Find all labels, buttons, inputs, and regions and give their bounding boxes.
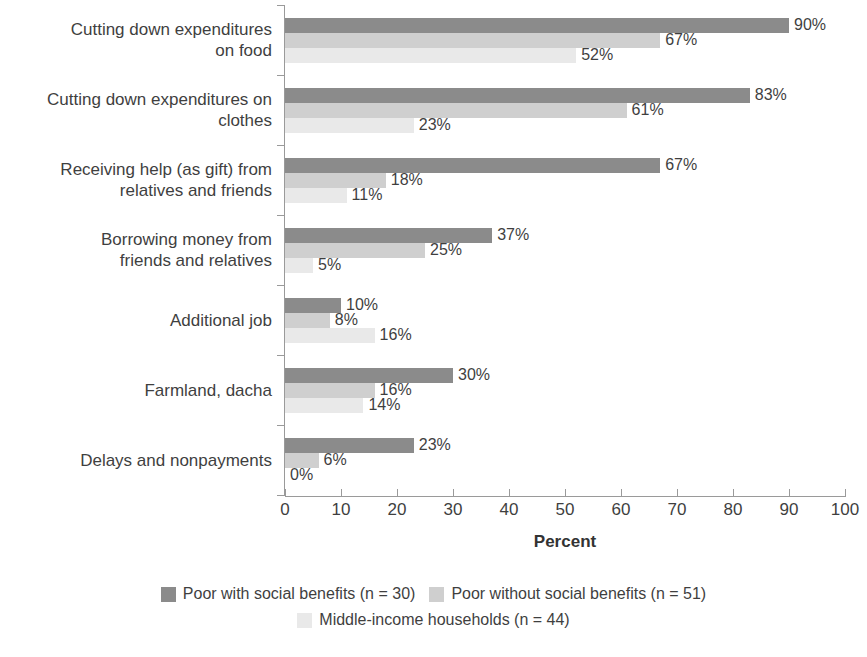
bar[interactable] (285, 103, 627, 118)
bar-group: 23%6%0% (285, 425, 845, 495)
bar-row: 14% (285, 398, 845, 413)
bar-row: 25% (285, 243, 845, 258)
bar-value-label: 16% (375, 325, 412, 345)
bar-chart: Cutting down expenditures on foodCutting… (0, 0, 867, 657)
x-axis-title: Percent (285, 532, 845, 552)
bar-row: 10% (285, 298, 845, 313)
bar-value-label: 5% (313, 255, 341, 275)
x-axis-tick-label: 70 (657, 500, 697, 520)
category-label: Cutting down expenditures on food (0, 19, 272, 61)
category-label-list: Cutting down expenditures on foodCutting… (0, 0, 272, 500)
bar-row: 0% (285, 468, 845, 483)
y-axis-tick (277, 355, 285, 356)
bar[interactable] (285, 313, 330, 328)
bar-value-label: 52% (576, 45, 613, 65)
bar-row: 8% (285, 313, 845, 328)
x-axis-tick (621, 489, 622, 497)
bar-value-label: 23% (414, 435, 451, 455)
bar-value-label: 11% (347, 185, 383, 205)
bar-group: 83%61%23% (285, 75, 845, 145)
x-axis-tick-label: 10 (321, 500, 361, 520)
category-label: Borrowing money from friends and relativ… (0, 229, 272, 271)
category-label: Additional job (0, 310, 272, 331)
bar-group: 10%8%16% (285, 285, 845, 355)
bar-value-label: 25% (425, 240, 462, 260)
bar-group: 67%18%11% (285, 145, 845, 215)
bar[interactable] (285, 48, 576, 63)
bar-group: 90%67%52% (285, 5, 845, 75)
bar-group: 37%25%5% (285, 215, 845, 285)
bar-row: 16% (285, 328, 845, 343)
category-label: Receiving help (as gift) from relatives … (0, 159, 272, 201)
legend-item[interactable]: Poor with social benefits (n = 30) (161, 585, 416, 603)
bar-row: 67% (285, 158, 845, 173)
bar-value-label: 14% (363, 395, 400, 415)
bar-value-label: 6% (319, 450, 347, 470)
chart-legend: Poor with social benefits (n = 30)Poor w… (0, 585, 867, 637)
x-axis-tick-label: 40 (489, 500, 529, 520)
legend-label: Middle-income households (n = 44) (319, 611, 569, 629)
x-axis-tick-label: 0 (265, 500, 305, 520)
bar[interactable] (285, 258, 313, 273)
bar[interactable] (285, 243, 425, 258)
bar-group: 30%16%14% (285, 355, 845, 425)
y-axis-tick (277, 215, 285, 216)
x-axis-tick (789, 489, 790, 497)
bar-value-label: 0% (285, 465, 313, 485)
x-axis-tick (565, 489, 566, 497)
legend-label: Poor without social benefits (n = 51) (451, 585, 706, 603)
bar-row: 90% (285, 18, 845, 33)
x-axis-tick (509, 489, 510, 497)
bar-row: 52% (285, 48, 845, 63)
legend-item[interactable]: Middle-income households (n = 44) (297, 611, 569, 629)
bar[interactable] (285, 18, 789, 33)
category-label: Cutting down expenditures on clothes (0, 89, 272, 131)
x-axis-tick (845, 489, 846, 497)
y-axis-tick (277, 425, 285, 426)
bar-value-label: 18% (386, 170, 423, 190)
category-label: Delays and nonpayments (0, 450, 272, 471)
y-axis-tick (277, 75, 285, 76)
bar[interactable] (285, 398, 363, 413)
bar[interactable] (285, 88, 750, 103)
bar-value-label: 61% (627, 100, 664, 120)
x-axis-tick (733, 489, 734, 497)
bar[interactable] (285, 188, 347, 203)
x-axis-tick (453, 489, 454, 497)
bar[interactable] (285, 158, 660, 173)
x-axis-tick-label: 30 (433, 500, 473, 520)
legend-label: Poor with social benefits (n = 30) (183, 585, 416, 603)
legend-swatch-icon (297, 613, 312, 628)
bar-value-label: 67% (660, 30, 697, 50)
y-axis-tick (277, 285, 285, 286)
bar-row: 83% (285, 88, 845, 103)
x-axis-tick-label: 20 (377, 500, 417, 520)
legend-item[interactable]: Poor without social benefits (n = 51) (429, 585, 706, 603)
legend-swatch-icon (161, 587, 176, 602)
bar-row: 5% (285, 258, 845, 273)
x-axis-tick (677, 489, 678, 497)
bar[interactable] (285, 368, 453, 383)
bar-row: 23% (285, 438, 845, 453)
bar-value-label: 30% (453, 365, 490, 385)
bar-value-label: 23% (414, 115, 451, 135)
bar-value-label: 8% (330, 310, 358, 330)
bar[interactable] (285, 118, 414, 133)
bar[interactable] (285, 328, 375, 343)
x-axis-tick-label: 90 (769, 500, 809, 520)
bar-value-label: 83% (750, 85, 787, 105)
x-axis-tick-label: 60 (601, 500, 641, 520)
y-axis-tick (277, 495, 285, 496)
y-axis-tick (277, 5, 285, 6)
legend-row: Middle-income households (n = 44) (0, 611, 867, 629)
bar-row: 11% (285, 188, 845, 203)
bar[interactable] (285, 438, 414, 453)
x-axis-tick-label: 50 (545, 500, 585, 520)
bar-row: 23% (285, 118, 845, 133)
legend-row: Poor with social benefits (n = 30)Poor w… (0, 585, 867, 603)
x-axis-tick (285, 489, 286, 497)
bar-value-label: 67% (660, 155, 697, 175)
category-label: Farmland, dacha (0, 380, 272, 401)
y-axis-tick (277, 145, 285, 146)
bar[interactable] (285, 383, 375, 398)
